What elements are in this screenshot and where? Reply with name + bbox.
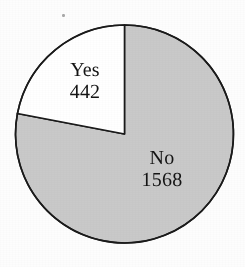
pie-chart-canvas bbox=[0, 0, 245, 267]
pie-label-yes-value: 442 bbox=[45, 82, 125, 104]
pie-label-no-name: No bbox=[122, 148, 202, 170]
pie-label-no-value: 1568 bbox=[122, 170, 202, 192]
pie-label-yes: Yes 442 bbox=[45, 60, 125, 103]
pie-label-yes-name: Yes bbox=[45, 60, 125, 82]
scan-speck-artifact bbox=[62, 14, 65, 17]
pie-label-no: No 1568 bbox=[122, 148, 202, 191]
pie-chart: Yes 442 No 1568 bbox=[0, 0, 245, 267]
pie-slices bbox=[16, 25, 234, 243]
